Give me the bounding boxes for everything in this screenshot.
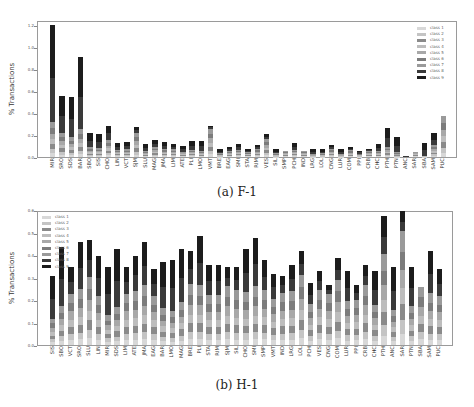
x-tick-label: SMP <box>260 346 266 362</box>
bar-lol <box>320 149 325 157</box>
segment-class-1 <box>206 340 211 345</box>
x-tick-label: PPI <box>356 158 362 174</box>
caption-f1: (a) F-1 <box>0 185 474 199</box>
segment-class-5 <box>354 315 359 322</box>
y-tick <box>34 346 37 347</box>
segment-class-5 <box>243 310 248 318</box>
segment-class-9 <box>188 251 193 269</box>
segment-class-7 <box>68 294 73 303</box>
segment-class-9 <box>299 251 304 264</box>
segment-class-1 <box>301 156 306 157</box>
bar-sbo <box>87 133 92 157</box>
bar-sis <box>96 134 101 157</box>
x-tick-label: MAG <box>151 158 157 174</box>
bar-crb <box>363 265 368 345</box>
x-tick-label: SAR <box>411 158 417 174</box>
segment-class-8 <box>243 273 248 292</box>
segment-class-9 <box>142 242 147 266</box>
segment-class-6 <box>363 296 368 306</box>
segment-class-8 <box>372 290 377 305</box>
bar-cng <box>326 285 331 345</box>
segment-class-1 <box>409 341 414 345</box>
segment-class-6 <box>441 123 446 130</box>
segment-class-1 <box>162 156 167 157</box>
segment-class-7 <box>87 277 92 289</box>
segment-class-8 <box>78 268 83 289</box>
bar-mag <box>152 140 157 157</box>
x-tick-label: SRO <box>76 346 82 362</box>
legend-label: class 9 <box>430 75 444 81</box>
x-tick-label: PLI <box>188 158 194 174</box>
bar-chc <box>376 144 381 157</box>
segment-class-9 <box>308 283 313 295</box>
x-tick-label: LOL <box>297 346 303 362</box>
bar-smi <box>253 238 258 345</box>
x-tick-label: CRB <box>362 346 368 362</box>
segment-class-7 <box>381 254 386 270</box>
segment-class-7 <box>363 285 368 296</box>
legend-swatch <box>417 39 426 42</box>
segment-class-8 <box>114 281 119 307</box>
segment-class-8 <box>225 278 230 287</box>
bar-slu <box>143 144 148 157</box>
segment-class-5 <box>400 270 405 288</box>
legend-swatch <box>417 70 426 73</box>
segment-class-5 <box>326 311 331 319</box>
y-tick <box>34 48 37 49</box>
x-tick-label: VMT <box>270 346 276 362</box>
segment-class-8 <box>262 277 267 290</box>
segment-class-1 <box>299 338 304 345</box>
segment-class-1 <box>59 155 64 157</box>
x-tick-label: IND <box>279 346 285 362</box>
bar-lim <box>171 144 176 157</box>
legend-swatch <box>42 259 51 262</box>
bar-lmo <box>199 141 204 157</box>
segment-class-9 <box>170 260 175 288</box>
segment-class-8 <box>234 280 239 291</box>
segment-class-9 <box>345 271 350 287</box>
segment-class-5 <box>428 311 433 319</box>
segment-class-9 <box>280 276 285 286</box>
bar-sjm <box>225 267 230 345</box>
segment-class-5 <box>299 299 304 310</box>
y-tick-label: 1.2 <box>20 23 34 28</box>
x-tick-label: PCH <box>291 158 297 174</box>
segment-class-1 <box>68 340 73 345</box>
x-tick-label: PTH <box>384 158 390 174</box>
segment-class-7 <box>262 290 267 300</box>
segment-class-1 <box>234 340 239 345</box>
bar-lim <box>124 267 129 345</box>
y-tick <box>34 211 37 212</box>
segment-class-2 <box>87 330 92 338</box>
segment-class-1 <box>363 339 368 345</box>
x-tick-label: BAR <box>77 158 83 174</box>
segment-class-1 <box>255 156 260 157</box>
segment-class-5 <box>262 309 267 318</box>
legend-swatch <box>417 33 426 36</box>
bar-slu <box>87 240 92 345</box>
segment-class-1 <box>78 154 83 157</box>
segment-class-1 <box>87 338 92 345</box>
segment-class-6 <box>262 300 267 309</box>
legend-swatch <box>42 253 51 256</box>
x-tick-label: ATE <box>131 346 137 362</box>
x-tick-label: BRE <box>187 346 193 362</box>
bar-lur <box>338 149 343 157</box>
bar-sam <box>428 251 433 345</box>
segment-class-9 <box>391 267 396 291</box>
segment-class-7 <box>289 291 294 301</box>
segment-class-8 <box>216 281 221 295</box>
segment-class-1 <box>418 339 423 345</box>
segment-class-2 <box>418 332 423 339</box>
segment-class-6 <box>437 305 442 313</box>
segment-class-5 <box>225 306 230 315</box>
segment-class-5 <box>437 312 442 320</box>
segment-class-8 <box>400 222 405 231</box>
bar-pth <box>385 128 390 157</box>
segment-class-8 <box>197 263 202 285</box>
segment-class-3 <box>317 325 322 333</box>
bar-lrg <box>310 149 315 157</box>
bar-sba <box>418 287 423 345</box>
segment-class-8 <box>59 279 64 306</box>
segment-class-4 <box>317 317 322 325</box>
